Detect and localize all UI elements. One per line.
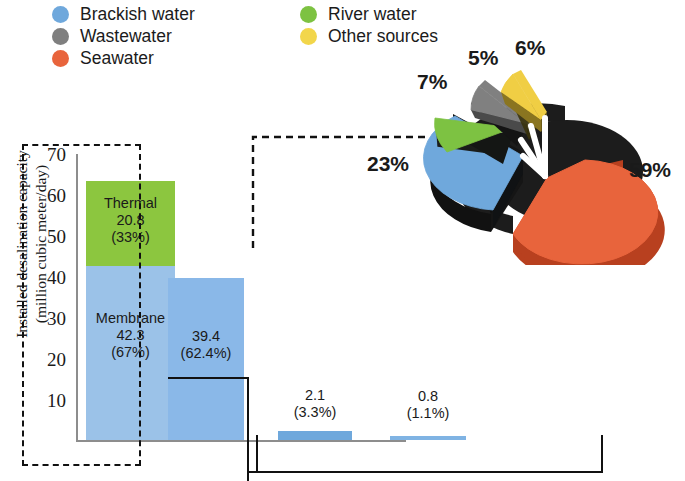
technology-bracket [248, 435, 602, 472]
membrane-to-technologies-leader [168, 378, 248, 472]
dashed-leader-to-pie [253, 137, 430, 248]
figure-root: Brackish water Wastewater Seawater River… [0, 0, 685, 481]
connector-overlay [0, 0, 685, 481]
